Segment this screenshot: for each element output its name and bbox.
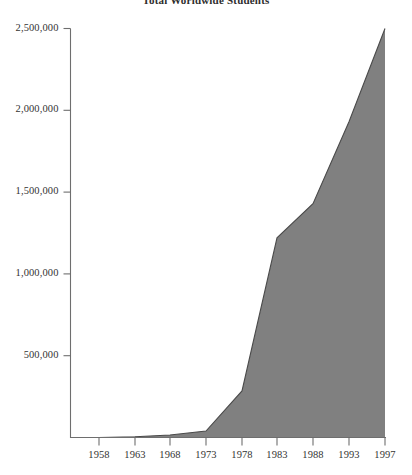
x-axis-ticks bbox=[99, 438, 385, 446]
x-tick-label: 1988 bbox=[293, 449, 333, 460]
x-tick-label: 1993 bbox=[329, 449, 369, 460]
x-tick-label: 1973 bbox=[186, 449, 226, 460]
y-tick-label: 1,500,000 bbox=[0, 185, 59, 196]
x-tick-label: 1983 bbox=[257, 449, 297, 460]
chart-figure: Total Worldwide Students 500,0001,000,00… bbox=[0, 0, 412, 475]
area-series-shape bbox=[71, 29, 386, 438]
y-tick-label: 2,500,000 bbox=[0, 22, 59, 33]
x-tick-label: 1963 bbox=[115, 449, 155, 460]
y-tick-label: 1,000,000 bbox=[0, 267, 59, 278]
plot-area bbox=[0, 0, 412, 475]
x-tick-label: 1978 bbox=[222, 449, 262, 460]
x-tick-label: 1968 bbox=[150, 449, 190, 460]
y-tick-label: 500,000 bbox=[0, 349, 59, 360]
x-tick-label: 1997 bbox=[365, 449, 405, 460]
y-tick-label: 2,000,000 bbox=[0, 103, 59, 114]
y-axis-ticks bbox=[64, 29, 71, 356]
x-tick-label: 1958 bbox=[79, 449, 119, 460]
